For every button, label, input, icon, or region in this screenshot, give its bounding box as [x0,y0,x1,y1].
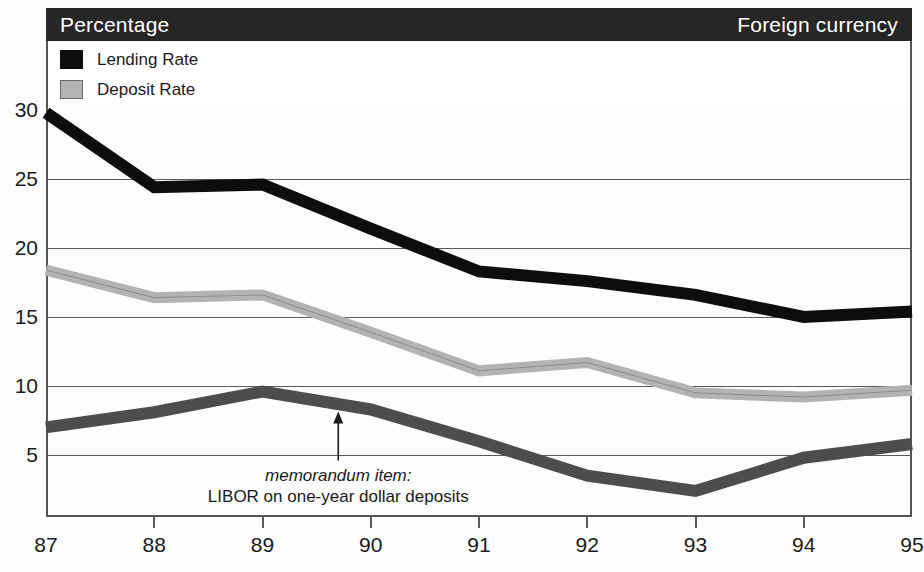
legend: Lending Rate Deposit Rate [60,44,198,104]
header-right-label: Foreign currency [737,14,898,35]
x-tick-92 [586,517,588,528]
x-tick-label-91: 91 [467,533,490,557]
chart-page: 51015202530 Percentage Foreign currency … [0,0,924,572]
x-tick-94 [803,517,805,528]
annotation-line-1: memorandum item: [208,465,469,486]
legend-label-deposit: Deposit Rate [97,81,195,98]
series-line-2 [46,392,912,491]
legend-label-lending: Lending Rate [97,51,198,68]
x-tick-label-92: 92 [576,533,599,557]
deposit-swatch-icon [60,80,83,99]
annotation-line-2: LIBOR on one-year dollar deposits [208,486,469,507]
chart-header-bar: Percentage Foreign currency [46,8,912,41]
series-line-1-center [46,270,912,397]
x-tick-label-90: 90 [359,533,382,557]
x-tick-89 [262,517,264,528]
lending-swatch-icon [60,50,83,69]
x-tick-91 [478,517,480,528]
annotation-arrow-head-icon [333,411,343,423]
x-tick-label-95: 95 [900,533,923,557]
legend-item-lending-rate: Lending Rate [60,44,198,74]
x-tick-label-87: 87 [34,533,57,557]
series-line-1 [46,270,912,397]
x-tick-90 [370,517,372,528]
x-tick-88 [153,517,155,528]
x-tick-label-94: 94 [792,533,815,557]
page-title: Percentage [60,14,169,35]
legend-item-deposit-rate: Deposit Rate [60,74,198,104]
x-tick-label-89: 89 [251,533,274,557]
x-tick-93 [695,517,697,528]
memorandum-annotation: memorandum item: LIBOR on one-year dolla… [208,465,469,508]
x-tick-label-93: 93 [684,533,707,557]
x-tick-label-88: 88 [143,533,166,557]
series-line-0 [46,113,912,317]
